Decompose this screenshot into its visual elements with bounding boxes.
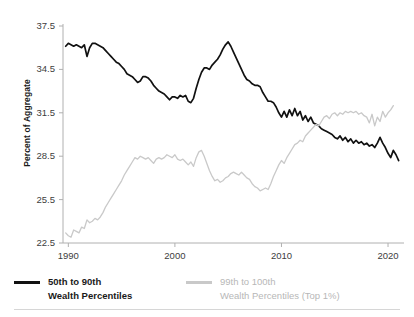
legend-divider xyxy=(14,309,400,310)
y-tick-label: 25.5 xyxy=(21,194,55,205)
series-line-primary xyxy=(66,42,399,161)
x-tick-label: 1990 xyxy=(46,250,90,261)
x-axis-ticks xyxy=(68,243,388,247)
plot-area: Percent of Aggregate 37.534.531.528.525.… xyxy=(0,0,414,266)
series-line-secondary xyxy=(66,106,394,238)
y-tick-label: 28.5 xyxy=(21,150,55,161)
y-axis-ticks xyxy=(59,26,63,243)
x-tick-label: 2010 xyxy=(259,250,303,261)
legend-label-secondary: 99th to 100th Wealth Percentiles (Top 1%… xyxy=(220,275,340,302)
y-tick-label: 22.5 xyxy=(21,237,55,248)
chart-legend: 50th to 90th Wealth Percentiles 99th to … xyxy=(0,268,414,317)
legend-swatch-primary xyxy=(14,281,40,284)
y-tick-label: 31.5 xyxy=(21,107,55,118)
legend-label-primary: 50th to 90th Wealth Percentiles xyxy=(48,275,132,302)
legend-item-99th-to-100th: 99th to 100th Wealth Percentiles (Top 1%… xyxy=(186,275,340,302)
legend-item-50th-to-90th: 50th to 90th Wealth Percentiles xyxy=(14,275,132,302)
data-series-group xyxy=(66,42,399,237)
axis-lines xyxy=(63,24,404,243)
legend-swatch-secondary xyxy=(186,281,212,284)
x-tick-label: 2000 xyxy=(153,250,197,261)
x-tick-label: 2020 xyxy=(366,250,410,261)
chart-figure: Percent of Aggregate 37.534.531.528.525.… xyxy=(0,0,414,317)
y-tick-label: 34.5 xyxy=(21,63,55,74)
y-tick-label: 37.5 xyxy=(21,20,55,31)
chart-svg xyxy=(0,0,414,266)
